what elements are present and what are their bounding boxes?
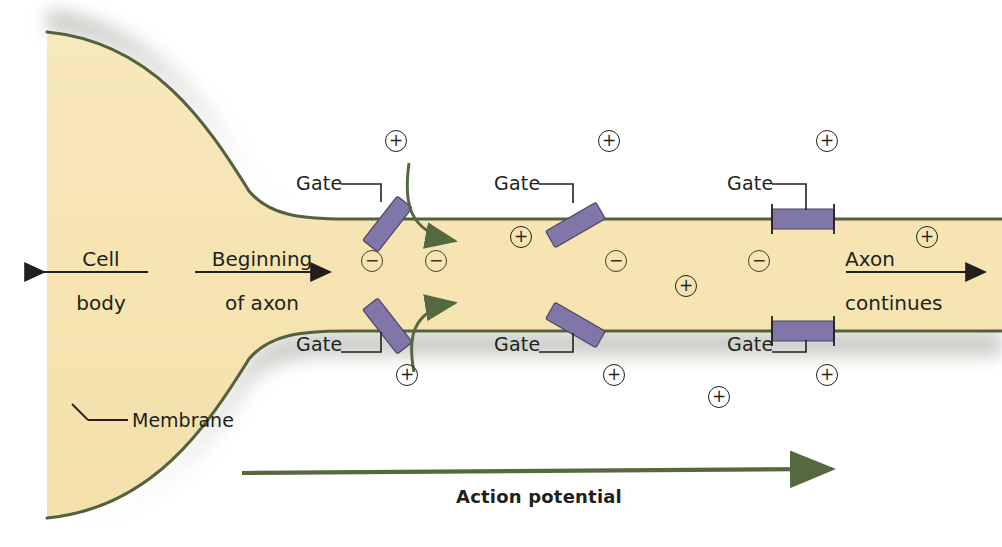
beginning-of-axon-label-line2: of axon: [192, 292, 332, 314]
gate-label-1: Gate: [296, 172, 342, 194]
ion-negative-inside-4: −: [748, 250, 770, 272]
ion-positive-inside-1: +: [510, 226, 532, 248]
ion-positive-outside-1: +: [385, 130, 407, 152]
ion-positive-outside-3: +: [816, 130, 838, 152]
action-potential-arrow: [242, 469, 832, 473]
axon-continues-label-line2: continues: [845, 292, 950, 314]
ion-negative-inside-2: −: [425, 250, 447, 272]
ion-positive-outside-7: +: [708, 386, 730, 408]
cell-body-label: Cell body: [56, 248, 146, 315]
ion-positive-outside-6: +: [816, 364, 838, 386]
ion-positive-outside-2: +: [598, 130, 620, 152]
axon-continues-label-line1: Axon: [845, 248, 950, 270]
beginning-of-axon-label-line1: Beginning: [192, 248, 332, 270]
gate-label-3: Gate: [494, 172, 540, 194]
ion-positive-inside-2: +: [675, 275, 697, 297]
ion-positive-outside-5: +: [603, 364, 625, 386]
action-potential-label: Action potential: [456, 486, 622, 507]
gate-label-2: Gate: [296, 333, 342, 355]
beginning-of-axon-label: Beginning of axon: [192, 248, 332, 315]
gate-label-5: Gate: [727, 172, 773, 194]
gate-3-top-channel[interactable]: [772, 209, 834, 229]
axon-continues-label: Axon continues: [845, 248, 950, 315]
ion-positive-outside-4: +: [396, 364, 418, 386]
ion-positive-inside-3: +: [916, 226, 938, 248]
ion-negative-inside-1: −: [361, 250, 383, 272]
gate-label-6: Gate: [727, 333, 773, 355]
diagram-canvas: Cell body Beginning of axon Axon continu…: [0, 0, 1002, 547]
ion-negative-inside-3: −: [605, 250, 627, 272]
membrane-label: Membrane: [132, 409, 234, 431]
cell-body-label-line2: body: [56, 292, 146, 314]
cell-body-label-line1: Cell: [56, 248, 146, 270]
gate-label-4: Gate: [494, 333, 540, 355]
gate-3-bottom-channel[interactable]: [772, 321, 834, 341]
